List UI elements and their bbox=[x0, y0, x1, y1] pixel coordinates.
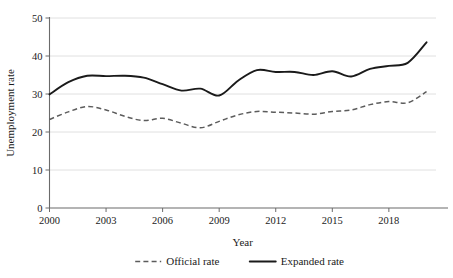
y-axis-title: Unemployment rate bbox=[4, 69, 16, 157]
y-tick-label-40: 40 bbox=[32, 51, 43, 62]
x-tick-label-2006: 2006 bbox=[152, 215, 173, 226]
gridlines-group bbox=[50, 18, 437, 170]
y-tick-label-10: 10 bbox=[32, 165, 43, 176]
x-tick-label-2018: 2018 bbox=[378, 215, 399, 226]
x-axis-title: Year bbox=[233, 236, 254, 248]
y-tick-label-30: 30 bbox=[32, 89, 43, 100]
x-axis-ticks-group: 2000200320062009201220152018 bbox=[39, 208, 399, 226]
series-line-expanded-rate bbox=[50, 42, 427, 95]
legend-label-official-rate: Official rate bbox=[166, 255, 219, 267]
x-tick-label-2015: 2015 bbox=[322, 215, 343, 226]
data-series-group bbox=[50, 42, 427, 128]
x-tick-label-2000: 2000 bbox=[39, 215, 60, 226]
y-tick-label-0: 0 bbox=[37, 203, 42, 214]
chart-legend: Official rateExpanded rate bbox=[135, 255, 344, 267]
series-line-official-rate bbox=[50, 92, 427, 128]
x-tick-label-2012: 2012 bbox=[265, 215, 286, 226]
y-tick-label-50: 50 bbox=[32, 13, 43, 24]
chart-figure: 01020304050 2000200320062009201220152018… bbox=[0, 0, 453, 278]
x-tick-label-2003: 2003 bbox=[96, 215, 117, 226]
legend-label-expanded-rate: Expanded rate bbox=[281, 255, 344, 267]
y-axis-ticks-group: 01020304050 bbox=[32, 13, 50, 214]
unemployment-rate-line-chart: 01020304050 2000200320062009201220152018… bbox=[0, 0, 453, 278]
y-tick-label-20: 20 bbox=[32, 127, 43, 138]
x-tick-label-2009: 2009 bbox=[209, 215, 230, 226]
